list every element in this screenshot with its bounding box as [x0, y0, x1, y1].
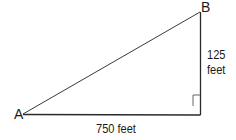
- right-angle-marker: [193, 95, 200, 106]
- base-side-label: 750 feet: [96, 122, 136, 135]
- triangle-diagram: B A 125 feet 750 feet: [0, 0, 236, 140]
- vertical-side-unit: feet: [207, 63, 225, 76]
- hypotenuse-line: [23, 12, 200, 114]
- base-line: [23, 115, 201, 116]
- vertical-side-value: 125: [207, 48, 225, 61]
- triangle-figure: [0, 0, 236, 140]
- vertex-label-a: A: [14, 107, 23, 121]
- vertex-label-b: B: [201, 0, 210, 14]
